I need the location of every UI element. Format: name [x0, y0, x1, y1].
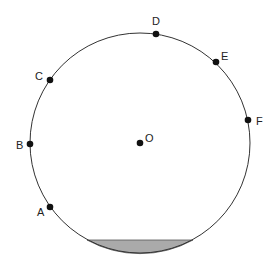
label-o: O	[145, 132, 154, 144]
label-b: B	[16, 139, 23, 151]
label-a: A	[37, 206, 45, 218]
label-d: D	[152, 15, 160, 27]
point-a	[47, 204, 54, 211]
label-c: C	[35, 70, 43, 82]
point-b	[27, 141, 34, 148]
point-o	[137, 140, 144, 147]
label-f: F	[256, 115, 263, 127]
point-e	[213, 59, 220, 66]
point-c	[47, 77, 54, 84]
label-e: E	[221, 50, 228, 62]
point-d	[153, 31, 160, 38]
circle-diagram: O A B C D E F	[0, 0, 276, 265]
point-f	[245, 117, 252, 124]
